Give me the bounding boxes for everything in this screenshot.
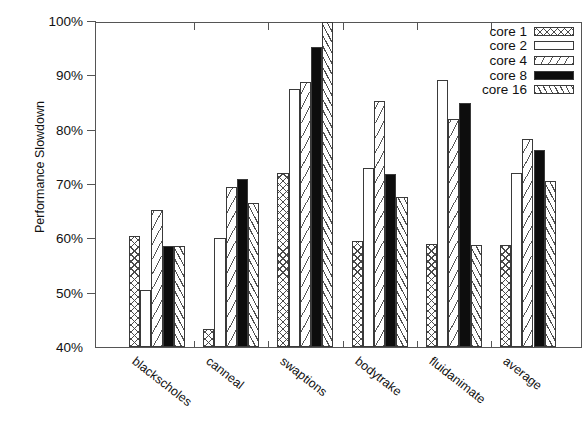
- bar: [363, 168, 374, 347]
- y-axis-tick-label: 50%: [56, 285, 83, 300]
- bar: [311, 47, 322, 347]
- x-axis-category-label: average: [500, 354, 544, 393]
- chart-figure: Performance Slowdown 40%50%60%70%80%90%1…: [0, 0, 583, 437]
- bar: [214, 238, 225, 347]
- legend-item-label: core 4: [489, 53, 527, 68]
- x-axis-tick-mark-top: [194, 23, 195, 30]
- bar: [471, 245, 482, 347]
- legend-item-label: core 1: [489, 24, 527, 39]
- legend-item-swatch: [534, 41, 574, 50]
- bar: [448, 119, 459, 347]
- legend-item-label: core 16: [482, 82, 527, 97]
- x-axis-tick-mark: [491, 341, 492, 348]
- bar: [545, 181, 556, 347]
- bar: [129, 236, 140, 347]
- y-axis-tick-mark: [87, 293, 96, 294]
- legend-item-swatch: [534, 56, 574, 65]
- bar: [248, 203, 259, 347]
- bar: [163, 246, 174, 347]
- y-axis-tick-label: 90%: [56, 68, 83, 83]
- x-axis-tick-mark-top: [417, 23, 418, 30]
- bar: [426, 244, 437, 347]
- bar: [385, 174, 396, 347]
- x-axis-tick-mark: [194, 341, 195, 348]
- x-axis-category-label: bodytrake: [352, 354, 404, 399]
- bar: [289, 89, 300, 347]
- bar: [459, 103, 470, 348]
- legend-item-swatch: [534, 71, 574, 80]
- y-axis-tick-mark: [87, 238, 96, 239]
- bar-group: [203, 23, 259, 347]
- y-axis-tick-label: 40%: [56, 340, 83, 355]
- bar: [237, 179, 248, 347]
- bar-group: [277, 23, 333, 347]
- bar-group: [129, 23, 185, 347]
- bar: [522, 139, 533, 347]
- bar: [300, 82, 311, 347]
- bar: [151, 210, 162, 347]
- x-axis-category-label: fluidanimate: [426, 354, 488, 407]
- bar: [396, 197, 407, 348]
- x-axis-category-label: blackscholes: [129, 354, 194, 409]
- y-axis-tick-mark: [87, 75, 96, 76]
- y-axis-tick-label: 60%: [56, 231, 83, 246]
- y-axis-tick-mark: [87, 21, 96, 22]
- y-axis-tick-label: 80%: [56, 122, 83, 137]
- legend-item: core 2: [462, 39, 574, 54]
- x-axis-tick-mark: [417, 341, 418, 348]
- x-axis-category-label: canneal: [204, 354, 247, 392]
- bar: [500, 245, 511, 347]
- legend-item-label: core 8: [489, 68, 527, 83]
- bar: [226, 187, 237, 347]
- chart-legend: core 1core 2core 4core 8core 16: [462, 24, 574, 97]
- legend-item-swatch: [534, 27, 574, 36]
- x-axis-tick-mark-top: [268, 23, 269, 30]
- bar: [352, 241, 363, 347]
- x-axis-tick-mark: [343, 341, 344, 348]
- bar: [174, 246, 185, 347]
- bar: [140, 290, 151, 347]
- y-axis-tick-mark: [87, 130, 96, 131]
- bar: [277, 173, 288, 347]
- legend-item: core 8: [462, 68, 574, 83]
- y-axis-tick-mark: [87, 184, 96, 185]
- bar: [534, 150, 545, 347]
- x-axis-tick-mark: [268, 341, 269, 348]
- legend-item: core 16: [462, 82, 574, 97]
- legend-item-swatch: [534, 85, 574, 94]
- bar: [511, 173, 522, 347]
- y-axis-title: Performance Slowdown: [33, 47, 47, 287]
- bar: [374, 101, 385, 347]
- y-axis-tick-label: 70%: [56, 177, 83, 192]
- legend-item-label: core 2: [489, 38, 527, 53]
- x-axis-tick-mark-top: [343, 23, 344, 30]
- y-axis-tick-label: 100%: [48, 14, 83, 29]
- bar: [437, 80, 448, 347]
- legend-item: core 4: [462, 53, 574, 68]
- legend-item: core 1: [462, 24, 574, 39]
- bar: [322, 22, 333, 347]
- bar-group: [352, 23, 408, 347]
- bar: [203, 329, 214, 347]
- x-axis-category-label: swaptions: [278, 354, 330, 399]
